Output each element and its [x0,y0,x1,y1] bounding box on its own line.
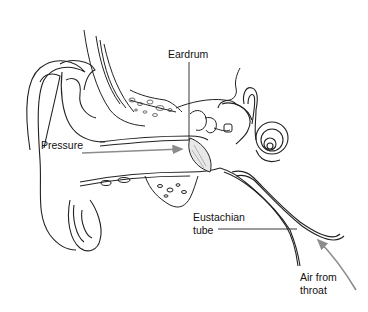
inner-ear [218,88,288,162]
label-air-line1: Air from [300,271,337,283]
label-eustachian-line2: tube [193,224,213,236]
label-air-line2: throat [300,284,327,296]
ear-diagram [0,0,368,312]
label-eustachian-line1: Eustachian [193,211,245,223]
temporal-bone [84,30,182,126]
bone-texture-upper [129,98,172,117]
label-pressure: Pressure [41,139,83,151]
outer-ear [27,61,105,251]
pressure-arrow [82,149,182,153]
label-eardrum: Eardrum [168,48,208,60]
eardrum [189,138,211,172]
